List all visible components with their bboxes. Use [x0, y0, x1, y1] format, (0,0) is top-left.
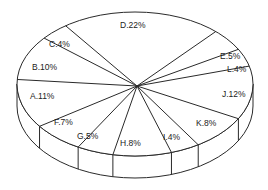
slice-label-f: F.7%	[54, 117, 73, 127]
pie-top-face	[17, 12, 253, 156]
slice-label-k: K.8%	[196, 118, 217, 128]
slice-label-l: L.4%	[227, 64, 247, 74]
pie-chart: D.22% E.5% L.4% J.12% K.8% I.4% H.8% G.5…	[0, 0, 268, 190]
pie-chart-svg: D.22% E.5% L.4% J.12% K.8% I.4% H.8% G.5…	[0, 0, 268, 190]
slice-label-b: B.10%	[32, 62, 57, 72]
slice-label-a: A.11%	[30, 91, 55, 101]
slice-label-d: D.22%	[120, 20, 146, 30]
slice-label-h: H.8%	[120, 138, 141, 148]
slice-label-g: G.5%	[77, 131, 99, 141]
slice-label-j: J.12%	[222, 89, 246, 99]
slice-label-i: I.4%	[163, 132, 180, 142]
slice-label-c: C.4%	[49, 39, 70, 49]
slice-label-e: E.5%	[220, 51, 241, 61]
